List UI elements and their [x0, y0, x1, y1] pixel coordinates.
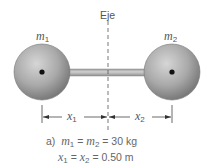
mass-1-subscript: 1: [45, 35, 49, 44]
mass-2-label: m2: [164, 29, 177, 44]
axis-label: Eje: [100, 9, 115, 21]
caption-m2: m: [86, 134, 95, 148]
mass-2-subscript: 2: [173, 35, 177, 44]
mass-1-symbol: m: [36, 29, 45, 43]
mass-1-center-dot: [39, 69, 44, 74]
caption-line-2: x1 = x2 = 0.50 m: [46, 151, 137, 163]
caption-m1: m: [61, 134, 70, 148]
x1-label: x1: [67, 109, 77, 124]
arrowhead-icon: [109, 115, 115, 119]
caption-prefix: a): [46, 135, 55, 147]
arrowhead-icon: [101, 115, 107, 119]
x1-subscript: 1: [72, 115, 76, 124]
arrowhead-icon: [43, 115, 49, 119]
caption-eq: =: [68, 151, 80, 163]
arrowhead-icon: [165, 115, 171, 119]
mass-2-center-dot: [169, 69, 174, 74]
x2-subscript: 2: [140, 115, 144, 124]
mass-1-label: m1: [36, 29, 49, 44]
caption-eq: =: [74, 135, 86, 147]
caption-distance-value: = 0.50 m: [90, 151, 134, 163]
caption-line-1: a) m1 = m2 = 30 kg: [46, 135, 137, 151]
connecting-rod: [66, 69, 146, 76]
mass-2-symbol: m: [164, 29, 173, 43]
caption-mass-value: = 30 kg: [99, 135, 137, 147]
caption: a) m1 = m2 = 30 kg x1 = x2 = 0.50 m: [46, 135, 137, 163]
x2-label: x2: [135, 109, 145, 124]
